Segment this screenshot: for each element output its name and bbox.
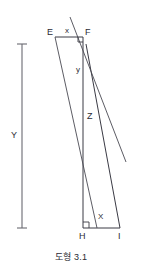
- geometry-figure: E F Z H I x y X Y 도형 3.1: [0, 0, 142, 276]
- vertex-label-E: E: [47, 28, 53, 37]
- vertex-label-I: I: [118, 232, 121, 241]
- vertex-label-H: H: [79, 232, 86, 241]
- vertex-label-F: F: [85, 28, 91, 37]
- right-angle-mark-H: [83, 222, 89, 228]
- measure-label-Y: Y: [11, 131, 17, 140]
- segment-label-bottom-X: X: [98, 213, 103, 221]
- segment-label-top-x: x: [65, 27, 69, 35]
- figure-drawing: [0, 0, 142, 276]
- figure-caption: 도형 3.1: [0, 250, 142, 263]
- segment-label-upper-y: y: [76, 66, 80, 74]
- vertex-label-Z: Z: [87, 112, 93, 121]
